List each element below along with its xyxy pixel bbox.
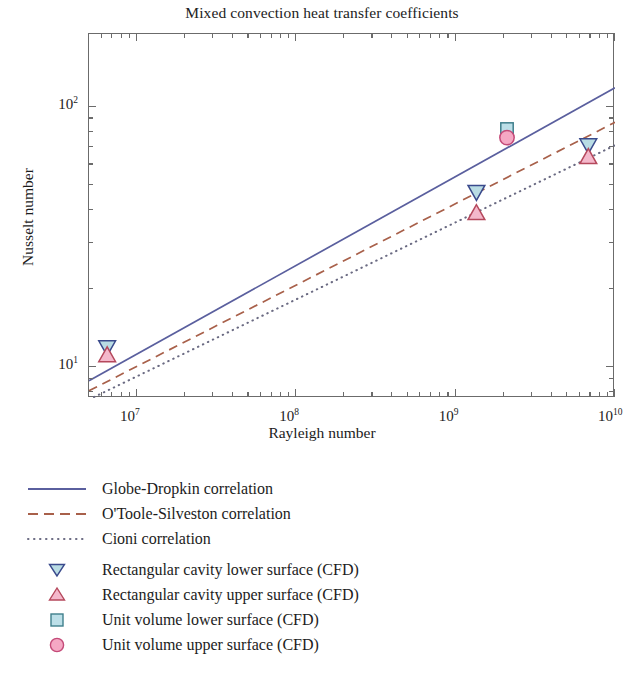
x-axis-tick — [447, 392, 448, 397]
plot-svg — [89, 34, 615, 398]
x-axis-tick — [455, 389, 456, 397]
y-axis-tick — [88, 117, 93, 118]
x-axis-tick — [407, 392, 408, 397]
y-axis-tick — [88, 131, 93, 132]
x-axis-tick — [589, 33, 590, 38]
line-solid-icon — [24, 476, 92, 501]
x-axis-tick — [247, 392, 248, 397]
x-axis-tick — [614, 389, 615, 397]
data-point-marker — [468, 205, 485, 220]
legend-item: Rectangular cavity lower surface (CFD) — [24, 557, 624, 582]
x-axis-tick — [566, 33, 567, 38]
x-tick-label: 107 — [120, 407, 140, 425]
series-line — [89, 122, 615, 390]
data-point-marker — [500, 130, 514, 144]
x-axis-tick — [280, 392, 281, 397]
y-axis-tick — [88, 391, 93, 392]
y-axis-tick — [88, 163, 93, 164]
x-axis-tick — [599, 392, 600, 397]
y-axis-tick — [609, 378, 614, 379]
legend-item: Globe-Dropkin correlation — [24, 476, 624, 501]
x-axis-tick — [430, 392, 431, 397]
x-axis-tick — [232, 392, 233, 397]
circle-marker-icon — [24, 632, 92, 657]
y-tick-label: 101 — [32, 355, 78, 373]
y-axis-tick — [88, 366, 96, 367]
legend-item: Rectangular cavity upper surface (CFD) — [24, 582, 624, 607]
y-axis-tick — [609, 209, 614, 210]
x-axis-tick — [280, 33, 281, 38]
y-axis-tick — [88, 146, 93, 147]
x-axis-tick — [579, 392, 580, 397]
x-axis-tick — [439, 392, 440, 397]
chart-title: Mixed convection heat transfer coefficie… — [0, 4, 644, 22]
y-axis-tick — [88, 378, 93, 379]
legend-item-label: O'Toole-Silveston correlation — [102, 501, 291, 526]
x-axis-tick — [212, 33, 213, 38]
x-axis-tick — [121, 392, 122, 397]
x-axis-tick — [343, 392, 344, 397]
x-axis-tick — [439, 33, 440, 38]
legend-item-label: Globe-Dropkin correlation — [102, 476, 273, 501]
x-axis-tick — [295, 389, 296, 397]
x-axis-tick — [136, 33, 137, 41]
x-axis-tick — [101, 392, 102, 397]
x-axis-tick — [551, 392, 552, 397]
chart-legend: Globe-Dropkin correlationO'Toole-Silvest… — [24, 476, 624, 657]
x-axis-tick — [271, 33, 272, 38]
y-axis-tick — [609, 131, 614, 132]
x-axis-tick — [407, 33, 408, 38]
x-axis-tick — [419, 33, 420, 38]
y-axis-tick — [609, 146, 614, 147]
x-axis-tick — [589, 392, 590, 397]
triangle-down-marker-icon — [24, 557, 92, 582]
x-axis-tick — [503, 33, 504, 38]
y-axis-tick — [609, 184, 614, 185]
x-axis-tick — [391, 392, 392, 397]
x-axis-tick — [371, 392, 372, 397]
y-axis-tick — [609, 242, 614, 243]
x-tick-label: 109 — [439, 407, 459, 425]
x-axis-tick — [121, 33, 122, 38]
x-axis-tick — [212, 392, 213, 397]
x-axis-tick — [184, 33, 185, 38]
plot-area — [88, 33, 614, 397]
y-axis-title: Nusselt number — [19, 117, 37, 317]
legend-item: Cioni correlation — [24, 526, 624, 551]
x-axis-tick — [455, 33, 456, 41]
x-axis-tick — [503, 392, 504, 397]
x-axis-tick — [184, 392, 185, 397]
x-axis-tick — [88, 392, 89, 397]
legend-item: Unit volume lower surface (CFD) — [24, 607, 624, 632]
x-axis-tick — [260, 33, 261, 38]
legend-item-label: Rectangular cavity lower surface (CFD) — [102, 557, 359, 582]
y-tick-label: 102 — [32, 95, 78, 113]
series-line — [89, 145, 615, 398]
x-axis-tick — [247, 33, 248, 38]
line-dotted-icon — [24, 526, 92, 551]
x-axis-tick — [288, 392, 289, 397]
x-axis-tick — [260, 392, 261, 397]
legend-item: Unit volume upper surface (CFD) — [24, 632, 624, 657]
line-dashed-icon — [24, 501, 92, 526]
chart-page: Mixed convection heat transfer coefficie… — [0, 0, 644, 673]
x-axis-tick — [531, 392, 532, 397]
legend-item-label: Rectangular cavity upper surface (CFD) — [102, 582, 359, 607]
x-axis-tick — [551, 33, 552, 38]
y-axis-tick — [609, 117, 614, 118]
x-axis-tick — [566, 392, 567, 397]
x-axis-tick — [607, 33, 608, 38]
x-axis-tick — [531, 33, 532, 38]
x-axis-tick — [271, 392, 272, 397]
x-axis-tick — [101, 33, 102, 38]
y-axis-tick — [88, 184, 93, 185]
data-point-marker — [99, 347, 116, 362]
y-axis-tick — [88, 106, 96, 107]
x-axis-tick — [129, 392, 130, 397]
x-axis-tick — [579, 33, 580, 38]
x-axis-tick — [136, 389, 137, 397]
x-axis-tick — [111, 392, 112, 397]
x-axis-tick — [232, 33, 233, 38]
x-axis-tick — [599, 33, 600, 38]
x-axis-tick — [614, 33, 615, 41]
